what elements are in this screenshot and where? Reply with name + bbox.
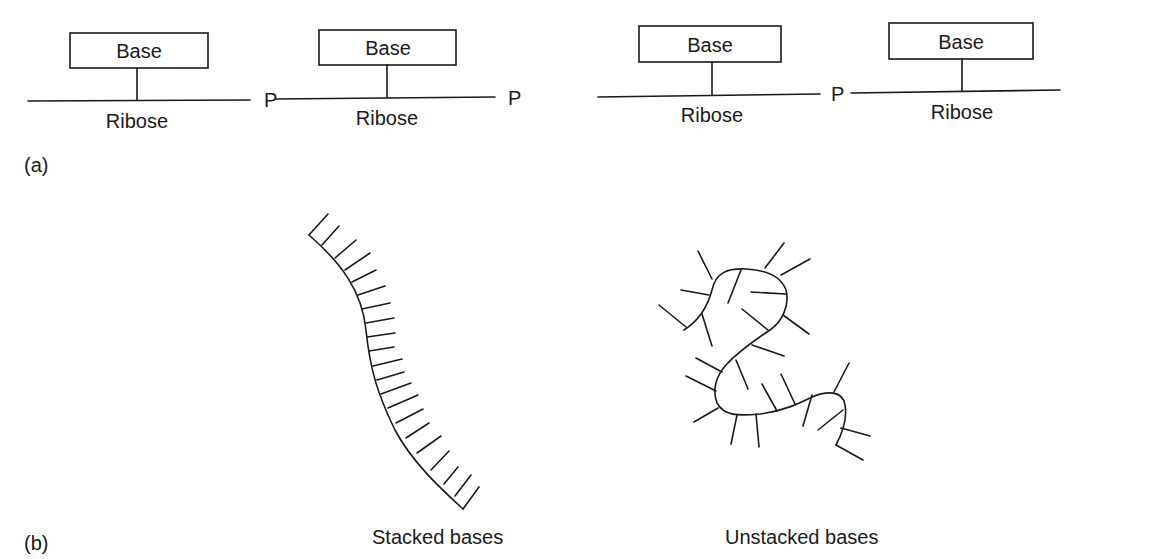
- phosphate-label: P: [508, 87, 521, 109]
- stacked-base-ticks: [309, 214, 479, 509]
- nucleotide-unit-1: Base Ribose: [28, 33, 250, 132]
- stacked-backbone: [309, 235, 463, 509]
- panel-b-label: (b): [24, 532, 48, 554]
- panel-a: Base Ribose P Base Ribose P Base Ribose …: [24, 23, 1060, 176]
- base-label: Base: [116, 40, 162, 62]
- unstacked-bases-strand: Unstacked bases: [659, 243, 878, 548]
- ribose-label: Ribose: [681, 104, 743, 126]
- unstacked-base-ticks: [659, 243, 870, 460]
- unstacked-bases-caption: Unstacked bases: [725, 526, 878, 548]
- panel-b: Stacked bases: [24, 214, 878, 554]
- backbone-segment: [851, 90, 1060, 93]
- nucleotide-unit-2: Base Ribose: [276, 30, 495, 129]
- ribose-label: Ribose: [356, 107, 418, 129]
- ribose-label: Ribose: [106, 110, 168, 132]
- stacked-bases-caption: Stacked bases: [372, 526, 503, 548]
- backbone-segment: [598, 94, 820, 97]
- base-label: Base: [365, 37, 411, 59]
- phosphate-label: P: [264, 89, 277, 111]
- rna-diagram: Base Ribose P Base Ribose P Base Ribose …: [0, 0, 1156, 559]
- nucleotide-unit-4: Base Ribose: [851, 23, 1060, 123]
- base-label: Base: [938, 31, 984, 53]
- backbone-segment: [28, 100, 250, 101]
- ribose-label: Ribose: [931, 101, 993, 123]
- backbone-segment: [276, 97, 495, 99]
- phosphate-label: P: [831, 83, 844, 105]
- base-label: Base: [687, 34, 733, 56]
- panel-a-label: (a): [24, 154, 48, 176]
- nucleotide-unit-3: Base Ribose: [598, 26, 820, 126]
- stacked-bases-strand: Stacked bases: [309, 214, 503, 548]
